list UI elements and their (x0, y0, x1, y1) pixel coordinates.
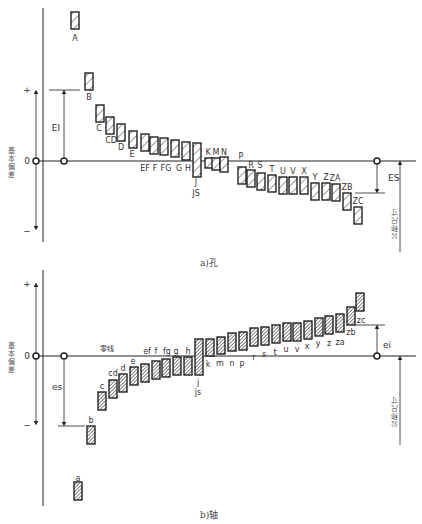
shaft-bar-d (119, 374, 127, 392)
shaft-bar-label: zb (346, 328, 355, 337)
shaft-bar-r (250, 328, 258, 346)
hole-bar-z (322, 183, 330, 200)
hole-bar-c (96, 105, 104, 122)
hole-bar-js (193, 143, 201, 177)
shaft-bar-c (98, 392, 106, 410)
shaft-bar-t (272, 325, 280, 343)
shaft-es-label: es (52, 382, 63, 392)
shaft-bar-za (336, 314, 344, 332)
hole-bar-fg (160, 138, 168, 155)
hole-bar-label: D (118, 143, 124, 152)
hole-es-label: ES (388, 173, 400, 183)
hole-bar-e (129, 131, 137, 148)
shaft-bar-k (206, 339, 214, 356)
shaft-bar-label: js (194, 388, 201, 397)
hole-bar-p (238, 167, 246, 184)
shaft-bar-label: z (327, 339, 331, 348)
hole-bar-label: R (248, 161, 254, 170)
shaft-bar-u (283, 323, 291, 341)
hole-bar-za (332, 184, 340, 201)
shaft-caption: b)轴 (200, 508, 218, 521)
hole-bar-label: B (86, 93, 92, 102)
hole-bar-b (85, 73, 93, 90)
shaft-bar-n (228, 333, 236, 351)
hole-bar-label: X (301, 167, 307, 176)
hole-bar-label: S (257, 161, 262, 170)
hole-ei-label: EI (52, 123, 60, 133)
shaft-bar-label: n (229, 359, 234, 368)
hole-es-origin-marker (374, 158, 380, 164)
shaft-bar-s (261, 327, 269, 345)
hole-bar-r (247, 170, 255, 187)
hole-bar-y (311, 183, 319, 200)
hole-deviation-bars: ABCCDDEEFFFGGHJSKMNPRSTUVXYZZAZBZCJ (71, 12, 364, 224)
hole-bar-label: E (129, 150, 134, 159)
shaft-bar-label: e (131, 357, 136, 366)
hole-bar-label: CD (105, 136, 117, 145)
shaft-bar-label: v (295, 345, 300, 354)
shaft-bar-label: a (76, 474, 81, 483)
hole-bar-h (182, 142, 190, 160)
shaft-ei-origin-marker (374, 353, 380, 359)
shaft-bar-y (315, 318, 323, 336)
shaft-bar-label: x (305, 342, 310, 351)
shaft-bar-label: h (185, 347, 190, 356)
shaft-bar-js (195, 339, 203, 375)
shaft-bar-label: r (252, 353, 256, 362)
hole-bar-label: A (72, 34, 78, 43)
shaft-bar-f (152, 361, 160, 379)
shaft-bar-cd (109, 380, 117, 398)
hole-diagram: 0 + − EI ES ABCCDDEEFFFGGHJSKMNPRSTUVXYZ… (23, 8, 416, 252)
hole-bar-label: ZC (352, 197, 363, 206)
hole-bar-s (257, 173, 265, 190)
shaft-extra-label: j (196, 378, 199, 387)
shaft-bar-label: y (316, 339, 321, 348)
shaft-es-origin-marker (61, 353, 67, 359)
shaft-bar-label: m (216, 359, 224, 368)
hole-bar-label: EF (140, 164, 150, 173)
hole-bar-label: C (96, 124, 102, 133)
hole-bar-f (150, 137, 158, 154)
hole-bar-label: N (221, 148, 227, 157)
shaft-bar-g (173, 357, 181, 375)
shaft-zero-label: 0 (24, 351, 30, 361)
shaft-bar-ef (141, 364, 149, 382)
hole-bar-v (289, 177, 297, 194)
shaft-plus-label: + (23, 279, 31, 289)
hole-bar-label: ZB (342, 183, 353, 192)
shaft-bar-label: zc (357, 316, 366, 325)
hole-bar-m (212, 158, 220, 170)
shaft-bar-b (87, 426, 95, 444)
hole-axis-label: 基本偏差 (6, 147, 16, 179)
hole-bar-cd (106, 117, 114, 134)
hole-bar-g (171, 140, 179, 157)
hole-bar-label: T (269, 165, 275, 174)
hole-bar-u (279, 177, 287, 194)
hole-bar-label: M (213, 148, 220, 157)
shaft-bar-v (293, 323, 301, 341)
shaft-bar-label: ef (143, 347, 151, 356)
hole-bar-label: F (153, 164, 158, 173)
hole-bar-label: U (280, 167, 286, 176)
hole-bar-label: Z (323, 173, 329, 182)
shaft-bar-label: fg (163, 347, 171, 356)
hole-bar-label: ZA (330, 174, 341, 183)
hole-origin-marker (33, 158, 39, 164)
shaft-bar-fg (162, 359, 170, 377)
shaft-bar-label: f (155, 347, 158, 356)
shaft-bar-label: k (206, 360, 211, 369)
hole-bar-x (300, 177, 308, 194)
shaft-origin-marker (33, 353, 39, 359)
shaft-bar-label: c (100, 382, 104, 391)
hole-bar-label: P (239, 152, 244, 161)
hole-bar-label: V (290, 167, 296, 176)
hole-bar-ef (141, 134, 149, 151)
shaft-bar-label: s (262, 350, 266, 359)
shaft-bar-a (74, 482, 82, 500)
shaft-bar-zc (356, 293, 364, 311)
hole-plus-label: + (23, 85, 31, 95)
shaft-deviation-bars: abccddeefffgghjskmnprstuvxyzzazbzcj (74, 293, 365, 500)
shaft-bar-label: za (335, 338, 344, 347)
hole-bar-label: K (205, 148, 211, 157)
shaft-bar-label: t (273, 348, 276, 357)
